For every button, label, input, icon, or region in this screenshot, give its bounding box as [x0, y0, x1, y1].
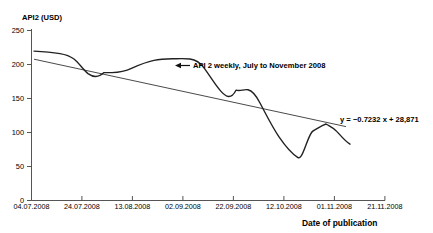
y-tick-label-200: 200 [0, 61, 24, 69]
x-tick-label-2: 24.07.2008 [55, 202, 108, 211]
figure-container: API2 (USD) [0, 0, 433, 233]
y-tick-label-150: 150 [0, 95, 24, 103]
annotation-arrow-icon [175, 63, 190, 68]
x-tick-label-1: 04.07.2008 [5, 202, 58, 211]
trendline-equation-label: y = −0.7232 x + 28,871 [340, 115, 419, 124]
y-tick-marks [27, 31, 32, 201]
y-tick-label-50: 50 [0, 163, 24, 171]
y-tick-label-100: 100 [0, 129, 24, 137]
x-tick-label-5: 22.09.2008 [207, 202, 260, 211]
series-annotation-label: API 2 weekly, July to November 2008 [193, 61, 325, 70]
y-tick-label-250: 250 [0, 27, 24, 35]
x-tick-marks [32, 196, 385, 201]
x-tick-label-7: 01.11.2008 [308, 202, 361, 211]
x-axis-title: Date of publication [302, 218, 377, 228]
x-tick-label-4: 02.09.2008 [156, 202, 209, 211]
x-tick-label-6: 12.10.2008 [257, 202, 310, 211]
x-tick-label-8: 21.11.2008 [358, 202, 411, 211]
x-tick-label-3: 13.08.2008 [106, 202, 159, 211]
